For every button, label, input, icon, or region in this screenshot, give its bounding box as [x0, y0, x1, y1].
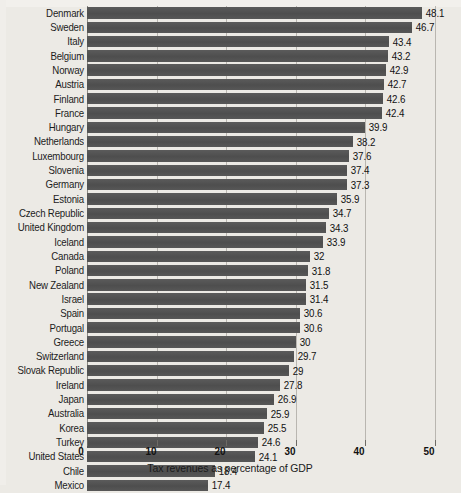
bar-category-label: Luxembourg [7, 151, 84, 162]
bar-row[interactable]: Belgium43.2 [0, 49, 461, 63]
bar-row[interactable]: Finland42.6 [0, 92, 461, 106]
bar-fill [87, 107, 382, 118]
bar-fill [87, 93, 383, 104]
bar-category-label: Korea [7, 423, 84, 434]
bar-row[interactable]: Slovenia37.4 [0, 163, 461, 177]
bar[interactable]: 34.3 [87, 222, 326, 233]
bar[interactable]: 34.7 [87, 208, 329, 219]
bar-fill [87, 480, 208, 491]
bar-value-label: 39.9 [365, 122, 387, 133]
bar[interactable]: 31.4 [87, 293, 306, 304]
bar-row[interactable]: Hungary39.9 [0, 121, 461, 135]
bar[interactable]: 30.6 [87, 322, 300, 333]
bar[interactable]: 37.4 [87, 165, 347, 176]
bar-fill [87, 251, 310, 262]
bar[interactable]: 42.9 [87, 64, 386, 75]
bar[interactable]: 26.9 [87, 394, 274, 405]
bar-row[interactable]: Czech Republic34.7 [0, 206, 461, 220]
bar-value-label: 42.6 [383, 93, 405, 104]
bar-value-label: 31.4 [306, 294, 328, 305]
bar-row[interactable]: Austria42.7 [0, 78, 461, 92]
bar[interactable]: 31.8 [87, 265, 308, 276]
bar[interactable]: 48.1 [87, 7, 422, 18]
bar-row[interactable]: Estonia35.9 [0, 192, 461, 206]
bar-row[interactable]: Sweden46.7 [0, 20, 461, 34]
bar-row[interactable]: Slovak Republic29 [0, 364, 461, 378]
bar-category-label: Portugal [7, 323, 84, 334]
bar-row[interactable]: Poland31.8 [0, 264, 461, 278]
tick-label-0: 0 [78, 445, 84, 458]
bar[interactable]: 29.7 [87, 351, 294, 362]
x-axis-title: Tax revenues as percentage of GDP [0, 462, 461, 474]
bar-row[interactable]: Mexico17.4 [0, 478, 461, 492]
bar-category-label: Hungary [7, 122, 84, 133]
bar-value-label: 37.3 [347, 179, 369, 190]
bar[interactable]: 42.6 [87, 93, 383, 104]
bar-row[interactable]: Japan26.9 [0, 392, 461, 406]
bar-category-label: Belgium [7, 51, 84, 62]
bar-row[interactable]: United Kingdom34.3 [0, 221, 461, 235]
bar-value-label: 34.7 [329, 208, 351, 219]
bar[interactable]: 29 [87, 365, 289, 376]
bar-row[interactable]: Israel31.4 [0, 292, 461, 306]
bar-row[interactable]: Iceland33.9 [0, 235, 461, 249]
bar-fill [87, 208, 329, 219]
bar[interactable]: 38.2 [87, 136, 353, 147]
bar-row[interactable]: Norway42.9 [0, 63, 461, 77]
bar[interactable]: 25.9 [87, 408, 267, 419]
bar-fill [87, 179, 347, 190]
bar-value-label: 38.2 [353, 136, 375, 147]
bar-category-label: Japan [7, 394, 84, 405]
bar-row[interactable]: Switzerland29.7 [0, 350, 461, 364]
bar-category-label: Mexico [7, 480, 84, 491]
bar[interactable]: 42.7 [87, 79, 384, 90]
bar-value-label: 26.9 [274, 394, 296, 405]
bar[interactable]: 37.3 [87, 179, 347, 190]
bar-row[interactable]: Ireland27.8 [0, 378, 461, 392]
bar-fill [87, 422, 264, 433]
bar-value-label: 43.4 [389, 36, 411, 47]
bar-row[interactable]: Italy43.4 [0, 35, 461, 49]
bar[interactable]: 42.4 [87, 107, 382, 118]
bar-value-label: 25.9 [267, 408, 289, 419]
bar-row[interactable]: Australia25.9 [0, 407, 461, 421]
bar[interactable]: 17.4 [87, 480, 208, 491]
bar-row[interactable]: Germany37.3 [0, 178, 461, 192]
tick-label-20: 20 [215, 445, 226, 458]
bar-row[interactable]: France42.4 [0, 106, 461, 120]
bar[interactable]: 27.8 [87, 379, 280, 390]
bar[interactable]: 32 [87, 251, 310, 262]
bar-row[interactable]: Netherlands38.2 [0, 135, 461, 149]
bar[interactable]: 39.9 [87, 122, 365, 133]
bar[interactable]: 30 [87, 336, 296, 347]
bar-row[interactable]: Canada32 [0, 249, 461, 263]
bar-fill [87, 122, 365, 133]
bar[interactable]: 43.4 [87, 36, 389, 47]
bar[interactable]: 46.7 [87, 22, 412, 33]
bar-value-label: 42.4 [382, 108, 404, 119]
bar[interactable]: 35.9 [87, 193, 337, 204]
bar-row[interactable]: New Zealand31.5 [0, 278, 461, 292]
bar-fill [87, 236, 323, 247]
bar-row[interactable]: Denmark48.1 [0, 6, 461, 20]
bar-value-label: 30.6 [300, 308, 322, 319]
bar-value-label: 37.6 [349, 151, 371, 162]
bar[interactable]: 31.5 [87, 279, 306, 290]
bar-fill [87, 394, 274, 405]
bar-category-label: Canada [7, 251, 84, 262]
bar[interactable]: 30.6 [87, 308, 300, 319]
bar-category-label: Australia [7, 408, 84, 419]
bar[interactable]: 33.9 [87, 236, 323, 247]
bar-fill [87, 279, 306, 290]
bar-row[interactable]: Korea25.5 [0, 421, 461, 435]
bar[interactable]: 43.2 [87, 50, 388, 61]
bar-row[interactable]: Spain30.6 [0, 307, 461, 321]
bar-row[interactable]: Greece30 [0, 335, 461, 349]
bar-category-label: Switzerland [7, 351, 84, 362]
bar-value-label: 46.7 [412, 22, 434, 33]
bar-row[interactable]: Portugal30.6 [0, 321, 461, 335]
bar[interactable]: 25.5 [87, 422, 264, 433]
bar-row[interactable]: Luxembourg37.6 [0, 149, 461, 163]
bar[interactable]: 37.6 [87, 150, 349, 161]
bar-fill [87, 408, 267, 419]
